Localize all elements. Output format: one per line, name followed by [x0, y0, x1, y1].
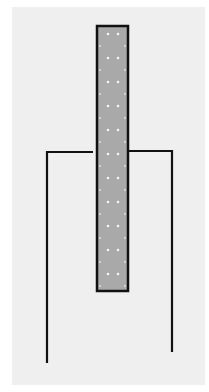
diagram-canvas	[0, 0, 209, 392]
container-right-wall	[128, 151, 172, 352]
test-strip	[97, 26, 128, 291]
container-left-wall	[47, 152, 93, 363]
